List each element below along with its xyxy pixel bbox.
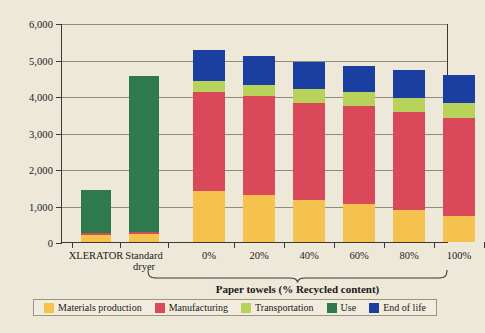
bar-segment	[393, 70, 425, 98]
legend-swatch	[155, 303, 165, 313]
legend-swatch	[241, 303, 251, 313]
bar-segment	[443, 103, 475, 117]
x-axis-tick	[434, 242, 435, 248]
bar-segment	[293, 200, 325, 242]
bar-segment	[243, 56, 275, 85]
bars-container	[62, 24, 447, 242]
x-axis-tick	[334, 242, 335, 248]
bar-segment	[443, 118, 475, 217]
x-axis-label: 80%	[399, 250, 418, 261]
bar-segment	[81, 235, 111, 242]
legend-label: End of life	[383, 302, 426, 313]
bar-segment	[193, 50, 225, 80]
bar-segment	[81, 190, 111, 233]
bar-segment	[243, 96, 275, 195]
stacked-bar	[129, 76, 159, 242]
legend-label: Transportation	[255, 302, 314, 313]
bar-segment	[293, 103, 325, 201]
bar-segment	[343, 106, 375, 204]
x-axis-label: 20%	[249, 250, 268, 261]
legend-label: Manufacturing	[169, 302, 228, 313]
x-axis-label: 100%	[447, 250, 472, 261]
bar-segment	[193, 81, 225, 93]
bar-segment	[343, 92, 375, 106]
bar-segment	[343, 204, 375, 242]
y-axis-tick	[56, 243, 62, 244]
bar-segment	[129, 76, 159, 232]
bar-segment	[393, 112, 425, 210]
bar-segment	[193, 92, 225, 191]
bar-segment	[129, 234, 159, 242]
stacked-bar	[243, 56, 275, 242]
group-brace-icon	[147, 269, 448, 283]
y-axis-tick-label: 6,000	[29, 19, 53, 30]
stacked-bar	[393, 70, 425, 242]
legend-swatch	[369, 303, 379, 313]
stacked-bar	[343, 66, 375, 242]
legend-item: End of life	[369, 302, 426, 313]
stacked-bar	[193, 50, 225, 242]
bar-segment	[393, 98, 425, 112]
legend-item: Transportation	[241, 302, 314, 313]
y-axis-tick-label: 1,000	[29, 201, 53, 212]
x-axis-label: 0%	[202, 250, 216, 261]
stacked-bar	[293, 62, 325, 242]
bar-segment	[293, 89, 325, 103]
legend-item: Use	[327, 302, 357, 313]
bar-segment	[243, 195, 275, 242]
bar-segment	[243, 85, 275, 97]
y-axis-tick-label: 2,000	[29, 165, 53, 176]
legend-swatch	[44, 303, 54, 313]
bar-segment	[443, 75, 475, 103]
legend-label: Materials production	[58, 302, 142, 313]
x-axis-title: Paper towels (% Recycled content)	[147, 283, 448, 295]
plot-area: 01,0002,0003,0004,0005,0006,000 XLERATOR…	[61, 24, 448, 243]
y-axis-tick-label: 3,000	[29, 128, 53, 139]
legend-swatch	[327, 303, 337, 313]
bar-segment	[293, 62, 325, 89]
x-axis-tick	[168, 242, 169, 248]
stacked-bar	[443, 75, 475, 242]
x-axis-label: 60%	[349, 250, 368, 261]
x-axis-label: 40%	[299, 250, 318, 261]
bar-segment	[443, 216, 475, 242]
legend-item: Manufacturing	[155, 302, 228, 313]
y-axis-tick-label: 0	[48, 238, 53, 249]
x-axis-tick	[120, 242, 121, 248]
x-axis-label: XLERATOR	[69, 250, 124, 261]
y-axis-tick-label: 5,000	[29, 55, 53, 66]
bar-segment	[393, 210, 425, 242]
y-axis-tick-label: 4,000	[29, 92, 53, 103]
x-axis-tick	[72, 242, 73, 248]
legend-item: Materials production	[44, 302, 142, 313]
stacked-bar	[81, 190, 111, 242]
chart-legend: Materials productionManufacturingTranspo…	[33, 299, 437, 316]
x-axis-tick	[384, 242, 385, 248]
x-axis-tick	[234, 242, 235, 248]
bar-segment	[193, 191, 225, 242]
legend-label: Use	[341, 302, 357, 313]
x-axis-tick	[284, 242, 285, 248]
bar-segment	[343, 66, 375, 92]
